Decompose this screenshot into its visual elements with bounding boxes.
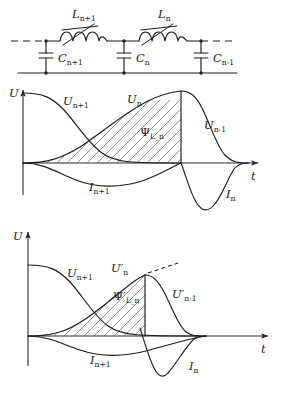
inductor-core-line (141, 26, 177, 30)
circuit-lc-ladder: Ln+1 Ln Cn+1 Cn Cn-1 (11, 7, 237, 75)
label-U-n-upper: Un (127, 92, 142, 108)
label-psi-L-n-upper: ΨL_n (140, 125, 164, 141)
capacitor-label-C-n: Cn (136, 51, 150, 67)
tangent-dashed-lower (148, 263, 178, 273)
y-axis-label-upper: U (9, 86, 19, 100)
capacitor-branch-C-n (117, 39, 131, 74)
capacitor-label-C-n-minus-1: Cn-1 (213, 51, 234, 67)
node-dot (44, 39, 47, 42)
figure-root: Ln+1 Ln Cn+1 Cn Cn-1 U t (0, 0, 289, 395)
node-dot (199, 71, 202, 74)
psi-hatch-area-upper (0, 100, 250, 180)
inductor-variable-arrow (63, 24, 94, 45)
curve-I-n-plus-1-upper (23, 163, 181, 186)
node-dot (199, 39, 202, 42)
label-U-n-plus-1-lower: Un+1 (67, 266, 93, 282)
inductor-variable-arrow (142, 24, 173, 45)
curve-U-n-upper (23, 91, 181, 163)
capacitor-branch-C-n-minus-1 (194, 39, 208, 74)
label-U-prime-n-minus-1-lower: U′n-1 (172, 287, 197, 303)
inductor-L-n (139, 24, 187, 45)
node-dot (44, 71, 47, 74)
node-dot (122, 39, 125, 42)
x-axis-label-upper: t (251, 169, 256, 183)
label-I-n-plus-1-upper: In+1 (88, 180, 110, 196)
figure-canvas: Ln+1 Ln Cn+1 Cn Cn-1 U t (0, 0, 289, 395)
inductor-label-L-n: Ln (157, 7, 171, 23)
inductor-label-L-n-plus-1: Ln+1 (71, 7, 96, 23)
label-U-prime-n-lower: U′n (111, 261, 128, 277)
label-I-n-upper: In (225, 187, 236, 203)
inductor-L-n-plus-1 (60, 24, 107, 45)
capacitor-branch-C-n-plus-1 (39, 39, 53, 74)
curve-I-n-plus-1-lower (28, 336, 206, 355)
y-axis-label-lower: U (13, 229, 23, 243)
chart-upper: U t (0, 86, 258, 210)
label-I-n-lower: In (188, 359, 199, 375)
label-U-n-plus-1-upper: Un+1 (63, 94, 89, 110)
node-dot (122, 71, 125, 74)
x-axis-label-lower: t (261, 342, 266, 356)
chart-lower: U t (0, 229, 268, 376)
curve-U-prime-n-lower (28, 275, 145, 336)
curve-U-prime-n-minus-1-lower (145, 275, 206, 336)
label-psi-prime-L-n-lower: Ψ′L_n (113, 289, 140, 305)
label-U-n-minus-1-upper: Un-1 (204, 118, 226, 134)
curve-I-n-upper (181, 163, 248, 210)
inductor-core-line (62, 26, 98, 30)
capacitor-label-C-n-plus-1: Cn+1 (58, 51, 83, 67)
